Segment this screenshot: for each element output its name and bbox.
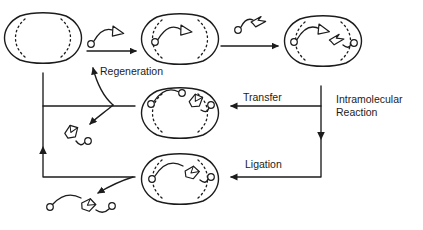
recycle-path	[43, 73, 135, 177]
released-product	[63, 123, 91, 144]
host-ligated-complex	[142, 154, 219, 205]
diagram-svg: Regeneration Transfer Intramolecular Rea…	[0, 0, 423, 230]
strand-curve	[53, 195, 81, 204]
label-intramolecular-line1: Intramolecular	[336, 93, 403, 105]
strand-curve	[76, 141, 85, 145]
strand-end-circle	[88, 41, 95, 48]
label-regeneration: Regeneration	[100, 65, 163, 77]
reaction-cycle-diagram: Regeneration Transfer Intramolecular Rea…	[0, 0, 423, 230]
strand-end-circle	[208, 102, 215, 109]
folded-product-icon	[63, 123, 80, 139]
host-ternary-complex	[285, 16, 362, 67]
strand-end-circle	[109, 203, 116, 210]
strand-end-circle	[351, 40, 358, 47]
free-substrate-b	[235, 14, 267, 33]
label-intramolecular-line2: Reaction	[336, 106, 378, 118]
strand-end-circle	[148, 101, 155, 108]
down-arrowhead-icon	[317, 132, 325, 140]
strand-end-circle	[235, 27, 242, 34]
folded-product-icon	[80, 197, 96, 212]
strand-end-circle	[149, 176, 156, 183]
free-substrate-a	[88, 26, 125, 47]
strand-end-circle	[152, 39, 159, 46]
strand-end-circle	[85, 138, 92, 145]
host-empty-barrel	[5, 13, 82, 64]
strand-end-circle	[179, 90, 186, 97]
label-transfer: Transfer	[243, 91, 282, 103]
product-release-curve-arrow	[90, 105, 113, 124]
host-product-template-complex	[142, 88, 219, 139]
strand-end-circle	[208, 174, 215, 181]
host-substrate-a-complex	[142, 14, 219, 65]
up-arrowhead-icon	[39, 146, 47, 154]
ligated-release-curve-arrow	[98, 177, 133, 193]
strand-end-circle	[47, 204, 54, 211]
strand-curve	[96, 209, 109, 212]
triangle-head-icon	[111, 26, 125, 38]
flag-head-icon	[250, 14, 267, 29]
strand-end-circle	[291, 39, 298, 46]
released-ligated-strand	[47, 195, 116, 212]
strand-curve	[241, 19, 253, 27]
label-ligation: Ligation	[245, 158, 282, 170]
